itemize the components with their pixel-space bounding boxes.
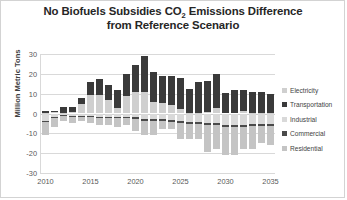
- bar-segment-residential: [42, 122, 49, 135]
- x-tick-label: 2020: [127, 177, 143, 186]
- bar-segment-transportation: [222, 93, 229, 113]
- bar-segment-residential: [231, 127, 238, 155]
- bar-segment-transportation: [195, 82, 202, 112]
- bar-column[interactable]: [258, 54, 265, 173]
- bar-segment-residential: [213, 125, 220, 149]
- bar-segment-electricity: [159, 103, 166, 114]
- bar-segment-transportation: [258, 92, 265, 112]
- bar-column[interactable]: [69, 54, 76, 173]
- bar-column[interactable]: [51, 54, 58, 173]
- bar-segment-transportation: [123, 74, 130, 97]
- chart-title-line1-part2: Emissions Difference: [186, 5, 303, 17]
- bar-column[interactable]: [141, 54, 148, 173]
- bar-column[interactable]: [42, 54, 49, 173]
- bar-column[interactable]: [105, 54, 112, 173]
- legend-item-electricity[interactable]: Electricity: [282, 83, 346, 98]
- bar-segment-transportation: [114, 90, 121, 108]
- bar-segment-transportation: [213, 74, 220, 108]
- bar-segment-transportation: [177, 78, 184, 109]
- bar-segment-electricity: [141, 92, 148, 114]
- bar-segment-residential: [96, 118, 103, 126]
- bar-column[interactable]: [87, 54, 94, 173]
- bar-column[interactable]: [159, 54, 166, 173]
- bar-segment-industrial: [195, 114, 202, 123]
- chart-container: No Biofuels Subsidies CO2 Emissions Diff…: [0, 0, 345, 198]
- x-tick-label: 2030: [217, 177, 233, 186]
- y-axis-ticks: 3020100-10-20-30: [1, 54, 37, 173]
- legend-item-residential[interactable]: Residential: [282, 141, 346, 156]
- bar-column[interactable]: [195, 54, 202, 173]
- bar-segment-residential: [204, 125, 211, 152]
- x-tick-label: 2025: [172, 177, 188, 186]
- bar-segment-electricity: [123, 96, 130, 113]
- legend-swatch-icon: [282, 102, 287, 107]
- bar-column[interactable]: [123, 54, 130, 173]
- bar-column[interactable]: [231, 54, 238, 173]
- bar-column[interactable]: [186, 54, 193, 173]
- bar-segment-electricity: [78, 104, 85, 113]
- bar-segment-residential: [69, 117, 76, 123]
- bar-segment-residential: [186, 124, 193, 139]
- legend-label: Transportation: [290, 101, 332, 108]
- bar-column[interactable]: [204, 54, 211, 173]
- bottom-caption: [4, 192, 184, 199]
- y-tick-label: 0: [3, 109, 37, 118]
- bar-segment-industrial: [231, 114, 238, 126]
- bar-column[interactable]: [114, 54, 121, 173]
- bar-segment-electricity: [105, 100, 112, 114]
- legend-swatch-icon: [282, 88, 287, 93]
- bar-segment-industrial: [186, 114, 193, 123]
- x-tick-label: 2035: [262, 177, 278, 186]
- bar-segment-residential: [105, 118, 112, 126]
- x-tick-label: 2015: [82, 177, 98, 186]
- bar-segment-transportation: [96, 79, 103, 94]
- bar-column[interactable]: [222, 54, 229, 173]
- bar-column[interactable]: [78, 54, 85, 173]
- bar-segment-residential: [123, 118, 130, 125]
- bar-segment-transportation: [69, 107, 76, 112]
- y-tick-label: 10: [3, 89, 37, 98]
- bar-column[interactable]: [60, 54, 67, 173]
- bar-segment-residential: [177, 123, 184, 139]
- legend-item-commercial[interactable]: Commercial: [282, 127, 346, 142]
- chart-title-line1-part1: No Biofuels Subsidies CO: [43, 5, 181, 17]
- bar-segment-industrial: [177, 114, 184, 122]
- bar-column[interactable]: [96, 54, 103, 173]
- bar-segment-residential: [60, 116, 67, 121]
- bar-segment-electricity: [132, 92, 139, 113]
- legend-item-industrial[interactable]: Industrial: [282, 112, 346, 127]
- bar-segment-industrial: [249, 114, 256, 125]
- bar-segment-residential: [258, 126, 265, 143]
- bar-column[interactable]: [168, 54, 175, 173]
- bar-column[interactable]: [150, 54, 157, 173]
- bar-segment-residential: [168, 122, 175, 130]
- bar-column[interactable]: [249, 54, 256, 173]
- bar-column[interactable]: [132, 54, 139, 173]
- bar-segment-residential: [222, 127, 229, 155]
- legend-swatch-icon: [282, 117, 287, 122]
- plot-area: [41, 54, 275, 173]
- bar-segment-residential: [150, 121, 157, 136]
- bar-segment-electricity: [96, 95, 103, 114]
- chart-title: No Biofuels Subsidies CO2 Emissions Diff…: [15, 5, 331, 32]
- bar-segment-industrial: [213, 114, 220, 124]
- bar-column[interactable]: [213, 54, 220, 173]
- bar-segment-transportation: [267, 94, 274, 112]
- bar-column[interactable]: [177, 54, 184, 173]
- legend-label: Commercial: [290, 130, 325, 137]
- bar-segment-residential: [159, 121, 166, 130]
- bar-segment-electricity: [168, 105, 175, 114]
- bar-segment-transportation: [240, 90, 247, 110]
- legend-swatch-icon: [282, 146, 287, 151]
- bar-segment-electricity: [87, 95, 94, 114]
- legend-item-transportation[interactable]: Transportation: [282, 98, 346, 113]
- bar-column[interactable]: [240, 54, 247, 173]
- bar-segment-residential: [141, 121, 148, 136]
- bar-segment-residential: [195, 124, 202, 139]
- y-tick-label: -30: [3, 169, 37, 178]
- bar-column[interactable]: [267, 54, 274, 173]
- legend-label: Electricity: [290, 87, 318, 94]
- bar-segment-transportation: [204, 81, 211, 112]
- bar-segment-transportation: [231, 90, 238, 113]
- y-tick-label: -10: [3, 129, 37, 138]
